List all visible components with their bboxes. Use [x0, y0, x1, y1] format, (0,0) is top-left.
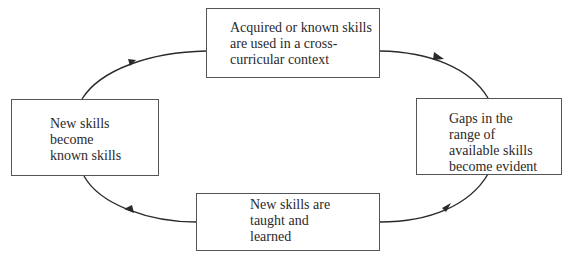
arrowhead-icon	[433, 52, 444, 60]
node-left-label: New skills become known skills	[50, 116, 121, 164]
node-bottom-label: New skills are taught and learned	[250, 197, 330, 245]
node-right-label: Gaps in the range of available skills be…	[449, 111, 537, 175]
arrow-right-to-bottom	[380, 174, 488, 222]
arrow-left-to-top	[82, 51, 206, 99]
node-top-label: Acquired or known skills are used in a c…	[230, 20, 372, 68]
node-right: Gaps in the range of available skills be…	[416, 98, 562, 175]
arrow-bottom-to-left	[84, 176, 196, 222]
node-left: New skills become known skills	[11, 99, 159, 176]
node-top: Acquired or known skills are used in a c…	[206, 8, 380, 78]
node-bottom: New skills are taught and learned	[196, 193, 380, 251]
arrowhead-icon	[124, 205, 134, 213]
